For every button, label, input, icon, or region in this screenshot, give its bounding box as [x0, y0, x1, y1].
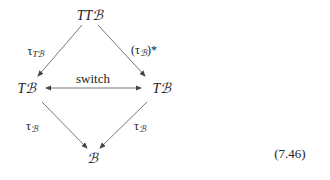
label-base: (τ — [131, 43, 140, 57]
label-tail: )* — [147, 43, 157, 57]
node-tb-left: Tℬ — [18, 80, 37, 97]
label-tau-tb: τTℬ — [28, 44, 45, 59]
label-sub: ℬ — [31, 124, 38, 134]
label-tau-b-pushforward: (τℬ)* — [131, 43, 157, 58]
label-tau-b-left: τℬ — [26, 119, 38, 134]
label-tau-b-right: τℬ — [134, 119, 146, 134]
label-sub: ℬ — [140, 48, 147, 58]
node-b: ℬ — [87, 150, 98, 167]
node-tb-right: Tℬ — [153, 80, 172, 97]
label-sub: Tℬ — [32, 49, 44, 59]
node-ttb: TTℬ — [77, 7, 104, 24]
arrow-top-left — [38, 25, 82, 76]
arrow-left-bottom — [42, 102, 87, 148]
equation-number: (7.46) — [274, 146, 305, 162]
label-sub: ℬ — [139, 124, 146, 134]
label-switch: switch — [76, 71, 110, 87]
